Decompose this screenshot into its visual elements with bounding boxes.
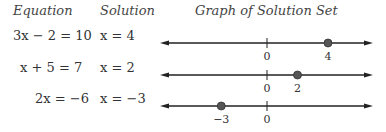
tick-label: 0: [264, 82, 271, 95]
tick-label: 4: [325, 50, 332, 63]
tick-label: 0: [264, 113, 271, 126]
solution-dot: [294, 71, 302, 79]
left-arrow-icon: [160, 104, 169, 109]
tick-label: 2: [294, 82, 301, 95]
number-line-1: 04: [160, 38, 373, 63]
number-lines: 0402−30: [0, 0, 386, 132]
number-line-2: 02: [160, 70, 373, 95]
right-arrow-icon: [364, 104, 373, 109]
tick-label: −3: [213, 113, 229, 126]
left-arrow-icon: [160, 73, 169, 78]
solution-dot: [217, 102, 225, 110]
left-arrow-icon: [160, 41, 169, 46]
right-arrow-icon: [364, 41, 373, 46]
tick-label: 0: [264, 50, 271, 63]
right-arrow-icon: [364, 73, 373, 78]
solution-dot: [324, 39, 332, 47]
number-line-3: −30: [160, 101, 373, 126]
